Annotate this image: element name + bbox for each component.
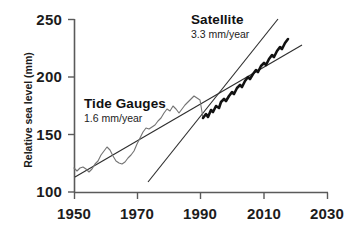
x-tick-label-2030: 2030 <box>297 205 357 222</box>
x-tick-label-1950: 1950 <box>44 205 104 222</box>
annotation-satellite-title: Satellite <box>191 12 249 27</box>
plot-area <box>0 0 362 237</box>
x-tick-label-1990: 1990 <box>170 205 230 222</box>
y-tick-label-250: 250 <box>16 11 62 28</box>
y-axis-title: Relative sea level (mm) <box>22 30 34 190</box>
x-axis-ticks <box>75 193 328 200</box>
satellite-trend-line <box>148 19 278 182</box>
annotation-tide-gauges: Tide Gauges 1.6 mm/year <box>84 96 166 124</box>
annotation-satellite-rate: 3.3 mm/year <box>191 28 249 40</box>
annotation-satellite: Satellite 3.3 mm/year <box>191 12 249 40</box>
satellite-series <box>203 39 288 118</box>
x-tick-label-2010: 2010 <box>234 205 294 222</box>
y-axis-ticks <box>68 20 75 193</box>
sea-level-chart: 250 200 150 100 1950 1970 1990 2010 2030… <box>0 0 362 237</box>
annotation-tide-gauges-rate: 1.6 mm/year <box>84 112 166 124</box>
x-tick-label-1970: 1970 <box>107 205 167 222</box>
annotation-tide-gauges-title: Tide Gauges <box>84 96 166 111</box>
